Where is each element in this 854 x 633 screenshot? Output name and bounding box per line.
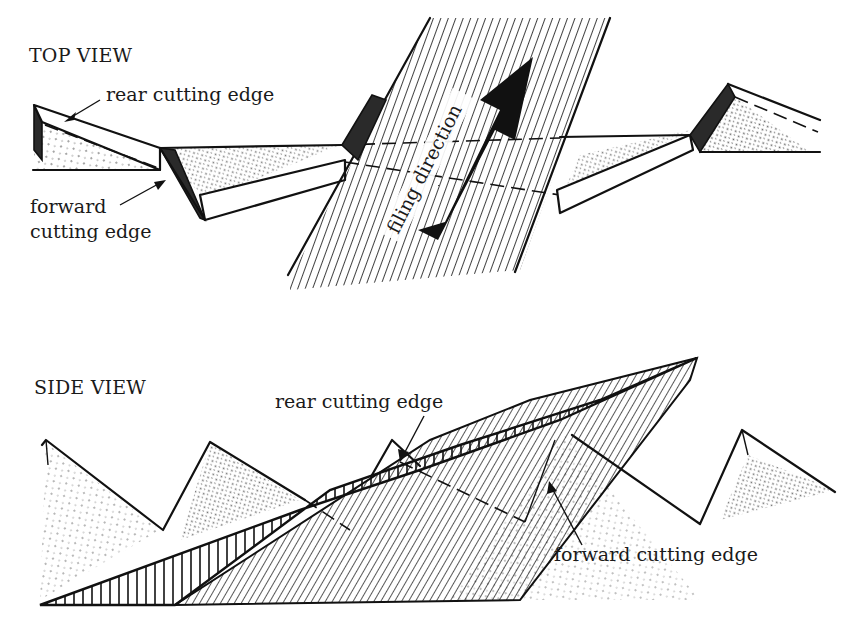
file-body-top xyxy=(288,18,610,290)
side-view-heading: SIDE VIEW xyxy=(34,376,146,398)
top-right-teeth xyxy=(557,84,820,213)
side-forward-cutting-edge-label: forward cutting edge xyxy=(554,543,758,565)
top-middle-tooth xyxy=(160,145,345,220)
saw-tooth-filing-diagram: TOP VIEW xyxy=(0,0,854,633)
top-left-tooth xyxy=(33,105,160,170)
top-forward-arrowhead xyxy=(154,180,166,190)
side-view: SIDE VIEW rear cutting edge forward cutt… xyxy=(34,358,835,605)
top-rear-cutting-edge-label: rear cutting edge xyxy=(106,83,274,105)
top-view-heading: TOP VIEW xyxy=(29,44,133,66)
side-rear-cutting-edge-label: rear cutting edge xyxy=(275,390,443,412)
top-forward-callout-line xyxy=(120,183,160,205)
top-forward-label-line1: forward xyxy=(30,195,106,217)
top-view: TOP VIEW xyxy=(29,18,820,290)
top-forward-label-line2: cutting edge xyxy=(30,220,151,242)
